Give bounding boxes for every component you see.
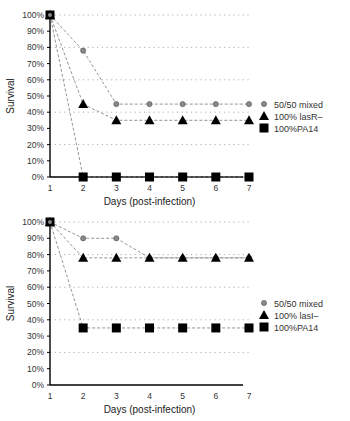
data-point-square xyxy=(112,173,121,182)
y-tick-label: 100% xyxy=(22,217,44,227)
data-point-square xyxy=(79,323,88,332)
data-point-square xyxy=(245,173,254,182)
data-point-square xyxy=(145,173,154,182)
data-point-square xyxy=(211,173,220,182)
x-tick-label: 4 xyxy=(147,183,152,193)
legend-label: 50/50 mixed xyxy=(274,299,323,309)
legend-marker-circle xyxy=(261,101,266,106)
data-point-triangle xyxy=(178,115,188,124)
y-axis-label: Survival xyxy=(5,78,16,114)
legend-label: 100%PA14 xyxy=(274,124,318,134)
y-tick-label: 40% xyxy=(27,107,44,117)
x-tick-label: 2 xyxy=(81,391,86,401)
data-point-square xyxy=(79,173,88,182)
x-tick-label: 1 xyxy=(48,183,53,193)
data-point-triangle xyxy=(244,115,254,124)
y-tick-label: 90% xyxy=(27,233,44,243)
x-tick-label: 7 xyxy=(247,183,252,193)
series-line-1 xyxy=(50,15,249,104)
y-tick-label: 30% xyxy=(27,123,44,133)
y-axis-label: Survival xyxy=(5,286,16,322)
y-tick-label: 80% xyxy=(27,42,44,52)
data-point-triangle xyxy=(78,99,88,108)
y-tick-label: 60% xyxy=(27,75,44,85)
data-point-circle xyxy=(180,102,185,107)
series-line-2 xyxy=(50,222,249,258)
x-tick-label: 2 xyxy=(81,183,86,193)
x-tick-label: 3 xyxy=(114,391,119,401)
y-tick-label: 70% xyxy=(27,59,44,69)
data-point-circle xyxy=(81,236,86,241)
data-point-triangle xyxy=(111,115,121,124)
x-axis-label: Days (post-infection) xyxy=(104,196,196,207)
data-point-triangle xyxy=(178,253,188,262)
data-point-circle xyxy=(213,102,218,107)
x-tick-label: 5 xyxy=(180,183,185,193)
y-tick-label: 20% xyxy=(27,347,44,357)
y-tick-label: 60% xyxy=(27,282,44,292)
data-point-circle xyxy=(114,102,119,107)
data-point-triangle xyxy=(78,253,88,262)
y-tick-label: 40% xyxy=(27,315,44,325)
data-point-triangle xyxy=(244,253,254,262)
x-tick-label: 1 xyxy=(48,391,53,401)
data-point-circle xyxy=(81,48,86,53)
y-tick-label: 100% xyxy=(22,10,44,20)
data-point-circle xyxy=(147,102,152,107)
data-point-triangle xyxy=(145,253,155,262)
data-point-square xyxy=(178,173,187,182)
legend-marker-circle xyxy=(261,300,266,305)
data-point-triangle xyxy=(145,115,155,124)
legend-label: 50/50 mixed xyxy=(274,100,323,110)
survival-charts: 0%10%20%30%40%50%60%70%80%90%100%1234567… xyxy=(0,0,350,421)
data-point-triangle xyxy=(211,115,221,124)
y-tick-label: 10% xyxy=(27,156,44,166)
y-tick-label: 0% xyxy=(32,172,45,182)
y-tick-label: 10% xyxy=(27,364,44,374)
data-point-square xyxy=(178,323,187,332)
y-tick-label: 50% xyxy=(27,299,44,309)
y-tick-label: 70% xyxy=(27,266,44,276)
y-tick-label: 20% xyxy=(27,140,44,150)
legend-label: 100%PA14 xyxy=(274,323,318,333)
data-point-square xyxy=(112,323,121,332)
x-axis-label: Days (post-infection) xyxy=(104,404,196,415)
y-tick-label: 50% xyxy=(27,91,44,101)
x-tick-label: 6 xyxy=(213,183,218,193)
legend-marker-triangle xyxy=(259,111,269,120)
legend-marker-square xyxy=(260,323,269,332)
chart-panel-1: 0%10%20%30%40%50%60%70%80%90%100%1234567… xyxy=(5,10,323,207)
legend-label: 100% lasR– xyxy=(274,112,323,122)
x-tick-label: 7 xyxy=(247,391,252,401)
legend-label: 100% lasI– xyxy=(274,311,319,321)
data-point-square xyxy=(211,323,220,332)
legend-marker-triangle xyxy=(259,310,269,319)
y-tick-label: 90% xyxy=(27,26,44,36)
data-point-circle xyxy=(114,236,119,241)
data-point-circle xyxy=(246,102,251,107)
x-tick-label: 3 xyxy=(114,183,119,193)
x-tick-label: 6 xyxy=(213,391,218,401)
data-point-square xyxy=(245,323,254,332)
data-point-triangle xyxy=(111,253,121,262)
x-tick-label: 5 xyxy=(180,391,185,401)
series-line-1 xyxy=(50,222,249,258)
chart-panel-2: 0%10%20%30%40%50%60%70%80%90%100%1234567… xyxy=(5,217,323,415)
legend-marker-square xyxy=(260,124,269,133)
x-tick-label: 4 xyxy=(147,391,152,401)
y-tick-label: 80% xyxy=(27,250,44,260)
data-point-overlap xyxy=(48,13,52,17)
series-line-3 xyxy=(50,222,249,328)
y-tick-label: 0% xyxy=(32,380,45,390)
data-point-overlap xyxy=(48,220,52,224)
data-point-square xyxy=(145,323,154,332)
y-tick-label: 30% xyxy=(27,331,44,341)
